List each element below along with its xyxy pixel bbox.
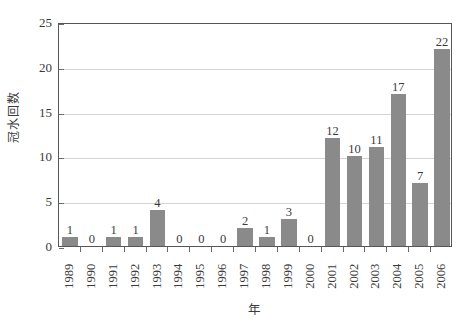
x-tick-label: 2001	[325, 254, 338, 298]
bar-value-label: 11	[365, 134, 387, 147]
bar	[391, 94, 407, 246]
x-tick-label: 2006	[435, 254, 448, 298]
chart-figure: 冠水回数 0510152025 10114000213012101117722 …	[0, 0, 465, 322]
bar-value-label: 22	[431, 36, 453, 49]
y-tick-label: 0	[18, 240, 52, 253]
bar-slot	[431, 24, 453, 246]
bar-value-label: 2	[234, 215, 256, 228]
bar	[369, 147, 385, 246]
x-tick-mark	[233, 247, 234, 252]
y-axis-tick-labels: 0510152025	[18, 0, 52, 322]
bar-value-label: 0	[168, 233, 190, 246]
bar-value-label: 12	[322, 125, 344, 138]
x-tick-label: 2002	[347, 254, 360, 298]
x-tick-mark	[408, 247, 409, 252]
bar-value-label: 0	[190, 233, 212, 246]
x-tick-label: 1995	[194, 254, 207, 298]
bar-slot	[234, 24, 256, 246]
bar-value-label: 17	[387, 81, 409, 94]
x-axis-title-text: 年	[248, 302, 261, 317]
bar	[237, 228, 253, 246]
bar-slot	[409, 24, 431, 246]
bar	[434, 49, 450, 246]
bar-value-label: 0	[81, 233, 103, 246]
bar-value-label: 4	[147, 197, 169, 210]
y-tick-label: 10	[18, 150, 52, 163]
x-tick-label: 1990	[85, 254, 98, 298]
bar-value-label: 0	[212, 233, 234, 246]
bar	[325, 138, 341, 246]
x-tick-mark	[255, 247, 256, 252]
x-tick-label: 1989	[63, 254, 76, 298]
bar	[128, 237, 144, 246]
bar	[150, 210, 166, 246]
bar-value-label: 1	[125, 224, 147, 237]
bar-series: 10114000213012101117722	[59, 24, 451, 246]
x-tick-mark	[343, 247, 344, 252]
x-tick-mark	[386, 247, 387, 252]
x-tick-label: 2004	[391, 254, 404, 298]
bar-slot	[81, 24, 103, 246]
bar-slot	[212, 24, 234, 246]
bar-value-label: 0	[300, 233, 322, 246]
y-tick-label: 25	[18, 16, 52, 29]
bar-slot	[125, 24, 147, 246]
x-tick-mark	[211, 247, 212, 252]
x-tick-mark	[277, 247, 278, 252]
bar-slot	[190, 24, 212, 246]
bar-slot	[147, 24, 169, 246]
x-tick-mark	[80, 247, 81, 252]
x-tick-mark	[430, 247, 431, 252]
bar-slot	[59, 24, 81, 246]
bar	[281, 219, 297, 246]
bar-value-label: 1	[256, 224, 278, 237]
x-tick-mark	[299, 247, 300, 252]
x-tick-mark	[102, 247, 103, 252]
y-tick-label: 20	[18, 61, 52, 74]
x-tick-label: 2000	[303, 254, 316, 298]
x-tick-label: 1996	[216, 254, 229, 298]
bar-slot	[300, 24, 322, 246]
bar	[106, 237, 122, 246]
bar-slot	[344, 24, 366, 246]
x-tick-mark	[124, 247, 125, 252]
x-tick-label: 1991	[106, 254, 119, 298]
bar-value-label: 1	[59, 224, 81, 237]
x-tick-mark	[146, 247, 147, 252]
x-tick-label: 1999	[282, 254, 295, 298]
bar-value-label: 3	[278, 206, 300, 219]
x-tick-label: 1993	[150, 254, 163, 298]
x-tick-mark	[321, 247, 322, 252]
x-tick-label: 1992	[128, 254, 141, 298]
bar-slot	[387, 24, 409, 246]
bar-value-label: 10	[344, 143, 366, 156]
bar-slot	[168, 24, 190, 246]
bar	[347, 156, 363, 246]
x-tick-mark	[364, 247, 365, 252]
bar-slot	[103, 24, 125, 246]
bar	[259, 237, 275, 246]
x-tick-mark	[167, 247, 168, 252]
bar	[412, 183, 428, 246]
x-tick-mark	[189, 247, 190, 252]
x-tick-label: 1997	[238, 254, 251, 298]
x-tick-label: 1994	[172, 254, 185, 298]
plot-area: 10114000213012101117722	[58, 23, 452, 247]
y-tick-label: 15	[18, 106, 52, 119]
x-axis-title: 年	[0, 299, 465, 318]
x-axis-tick-labels: 1989199019911992199319941995199619971998…	[58, 252, 452, 296]
x-tick-label: 1998	[260, 254, 273, 298]
x-tick-label: 2003	[369, 254, 382, 298]
bar-value-label: 7	[409, 170, 431, 183]
bar-value-label: 1	[103, 224, 125, 237]
y-tick-label: 5	[18, 195, 52, 208]
bar	[62, 237, 78, 246]
bar-slot	[256, 24, 278, 246]
x-tick-label: 2005	[413, 254, 426, 298]
